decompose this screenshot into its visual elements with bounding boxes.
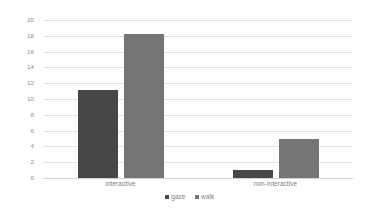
bar-walk-interactive (124, 34, 164, 178)
y-axis: 02468101214161820 (0, 20, 40, 178)
legend-swatch-icon (165, 195, 169, 199)
gridline (43, 67, 353, 68)
legend-swatch-icon (195, 195, 199, 199)
y-tick-label: 16 (27, 48, 34, 54)
y-tick-label: 14 (27, 64, 34, 70)
bar-chart: 02468101214161820 interactivenon-interac… (0, 0, 379, 216)
bar-gaze-non-interactive (233, 170, 273, 178)
legend-item-walk: walk (195, 194, 215, 200)
y-tick-label: 10 (27, 96, 34, 102)
legend-item-gaze: gaze (165, 194, 186, 200)
bar-gaze-interactive (78, 90, 118, 178)
axis-baseline (43, 178, 353, 179)
gridline (43, 36, 353, 37)
gridline (43, 83, 353, 84)
plot-area (43, 20, 353, 178)
y-tick-label: 6 (30, 127, 34, 133)
chart-legend: gazewalk (0, 194, 379, 200)
x-tick-label: interactive (105, 181, 135, 187)
bar-walk-non-interactive (279, 139, 319, 178)
legend-label: walk (201, 194, 214, 200)
y-tick-label: 8 (30, 112, 34, 118)
y-tick-label: 4 (30, 143, 34, 149)
x-axis: interactivenon-interactive (43, 181, 353, 193)
y-tick-label: 2 (30, 159, 34, 165)
legend-label: gaze (171, 194, 185, 200)
gridline (43, 52, 353, 53)
x-tick-label: non-interactive (254, 181, 297, 187)
gridline (43, 20, 353, 21)
y-tick-label: 12 (27, 80, 34, 86)
y-tick-label: 20 (27, 17, 34, 23)
y-tick-label: 18 (27, 33, 34, 39)
y-tick-label: 0 (30, 175, 34, 181)
